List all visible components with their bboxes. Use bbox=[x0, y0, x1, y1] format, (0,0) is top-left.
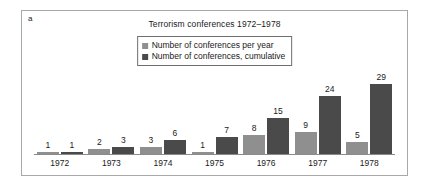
bar-per-year-value: 9 bbox=[303, 120, 308, 130]
bar-cumulative-value: 3 bbox=[121, 135, 126, 145]
x-axis-label: 1976 bbox=[240, 158, 292, 169]
bar-cumulative-value: 15 bbox=[273, 106, 282, 116]
bar-group: 23 bbox=[86, 71, 138, 154]
bar-per-year[interactable]: 9 bbox=[295, 132, 317, 154]
legend-swatch-per-year bbox=[142, 43, 148, 49]
legend-swatch-cumulative bbox=[142, 54, 148, 60]
bar-per-year-wrap: 9 bbox=[294, 71, 318, 154]
bar-per-year[interactable]: 5 bbox=[346, 142, 368, 154]
bar-cumulative-wrap: 7 bbox=[215, 71, 239, 154]
bar-per-year[interactable]: 3 bbox=[140, 147, 162, 154]
bar-group: 529 bbox=[343, 71, 395, 154]
x-axis-label: 1978 bbox=[343, 158, 395, 169]
bar-cumulative-value: 24 bbox=[325, 84, 334, 94]
bar-per-year-wrap: 1 bbox=[191, 71, 215, 154]
bar-cumulative[interactable]: 3 bbox=[112, 147, 134, 154]
bar-group: 11 bbox=[34, 71, 86, 154]
bar-group: 36 bbox=[137, 71, 189, 154]
bar-per-year-wrap: 1 bbox=[36, 71, 60, 154]
x-axis-label: 1977 bbox=[292, 158, 344, 169]
bar-group: 17 bbox=[189, 71, 241, 154]
bar-cumulative[interactable]: 24 bbox=[319, 96, 341, 154]
x-axis-line bbox=[34, 154, 395, 155]
bar-group: 924 bbox=[292, 71, 344, 154]
bar-cumulative[interactable]: 6 bbox=[164, 140, 186, 154]
chart-title: Terrorism conferences 1972–1978 bbox=[22, 19, 407, 29]
bar-cumulative-wrap: 3 bbox=[111, 71, 135, 154]
x-axis-label: 1972 bbox=[34, 158, 86, 169]
bar-per-year-value: 5 bbox=[355, 130, 360, 140]
legend-item-cumulative: Number of conferences, cumulative bbox=[142, 51, 286, 62]
bar-cumulative-wrap: 6 bbox=[163, 71, 187, 154]
bar-cumulative-value: 6 bbox=[173, 128, 178, 138]
bar-per-year-value: 3 bbox=[149, 135, 154, 145]
bar-groups: 11233617815924529 bbox=[34, 71, 395, 154]
figure-panel: a Terrorism conferences 1972–1978 Number… bbox=[21, 10, 408, 176]
bar-cumulative-wrap: 1 bbox=[60, 71, 84, 154]
x-axis-label: 1973 bbox=[86, 158, 138, 169]
legend-item-per-year: Number of conferences per year bbox=[142, 40, 286, 51]
bar-cumulative-wrap: 24 bbox=[318, 71, 342, 154]
bar-group: 815 bbox=[240, 71, 292, 154]
bar-per-year[interactable]: 8 bbox=[243, 135, 265, 154]
legend-label-cumulative: Number of conferences, cumulative bbox=[152, 51, 286, 62]
legend-label-per-year: Number of conferences per year bbox=[152, 40, 274, 51]
bar-per-year-wrap: 3 bbox=[139, 71, 163, 154]
bar-cumulative[interactable]: 15 bbox=[267, 118, 289, 154]
bar-per-year-value: 8 bbox=[252, 123, 257, 133]
bar-cumulative-value: 7 bbox=[224, 125, 229, 135]
bar-per-year-wrap: 8 bbox=[242, 71, 266, 154]
bar-per-year-wrap: 5 bbox=[345, 71, 369, 154]
bar-cumulative-value: 29 bbox=[377, 72, 386, 82]
x-axis-labels: 1972197319741975197619771978 bbox=[34, 158, 395, 169]
bar-per-year-value: 1 bbox=[45, 140, 50, 150]
bar-cumulative-wrap: 29 bbox=[369, 71, 393, 154]
bar-cumulative-value: 1 bbox=[69, 140, 74, 150]
bar-per-year-wrap: 2 bbox=[87, 71, 111, 154]
bar-per-year-value: 1 bbox=[200, 140, 205, 150]
bar-cumulative-wrap: 15 bbox=[266, 71, 290, 154]
chart-legend: Number of conferences per year Number of… bbox=[137, 36, 293, 66]
x-axis-label: 1975 bbox=[189, 158, 241, 169]
bar-cumulative[interactable]: 7 bbox=[216, 137, 238, 154]
bar-cumulative[interactable]: 29 bbox=[370, 84, 392, 154]
x-axis-label: 1974 bbox=[137, 158, 189, 169]
bar-per-year-value: 2 bbox=[97, 137, 102, 147]
plot-area: 11233617815924529 bbox=[34, 71, 395, 155]
